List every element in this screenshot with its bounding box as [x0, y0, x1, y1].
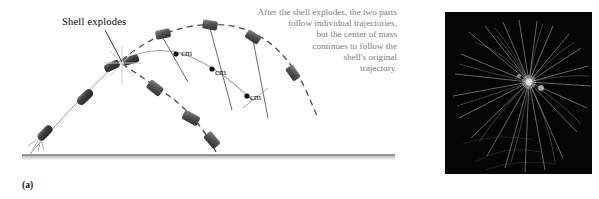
annotation-line-4: continues to follow the [242, 41, 397, 52]
fragment-upper-2 [202, 19, 218, 30]
annotation-line-1: After the shell explodes, the two parts [242, 7, 397, 18]
panel-a-diagram: Shell explodes cm cm cm After the shell … [0, 0, 400, 199]
shell-explodes-label: Shell explodes [62, 16, 126, 27]
shell-ascending-1 [28, 124, 54, 152]
cm-label-3: cm [250, 92, 261, 102]
panel-b-photograph: (b) [400, 0, 599, 199]
cm-label-1: cm [181, 48, 192, 58]
ground [22, 155, 395, 161]
launch-sparks [28, 140, 44, 152]
lower-fragment-trajectory [122, 64, 216, 152]
firework-photo [445, 12, 592, 174]
firework-burst-render [445, 12, 592, 174]
cm-label-2: cm [215, 67, 226, 77]
callout-leader-line [105, 30, 122, 62]
annotation-line-6: trajectory. [242, 63, 397, 74]
fragment-upper-1 [155, 28, 172, 40]
shell-ascending-2 [75, 87, 95, 106]
annotation-line-5: shell's original [242, 52, 397, 63]
physics-figure-center-of-mass: Shell explodes cm cm cm After the shell … [0, 0, 599, 199]
annotation-line-3: but the center of mass [242, 29, 397, 40]
center-of-mass-markers [173, 51, 249, 98]
panel-a-tag: (a) [22, 180, 33, 190]
annotation-line-2: follow individual trajectories, [242, 18, 397, 29]
explosion-annotation-text: After the shell explodes, the two parts … [242, 7, 397, 74]
